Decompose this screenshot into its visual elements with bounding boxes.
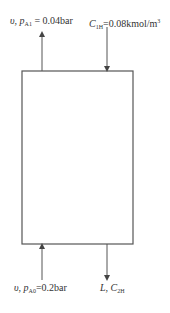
bottom-left-label: υ, pA0=0.2bar: [14, 282, 67, 297]
column-box: [22, 71, 133, 244]
top-right-label: C1H=0.08kmol/m3: [89, 15, 160, 33]
top-left-label: υ, pA1 = 0.04bar: [10, 15, 73, 30]
column-diagram: [0, 0, 170, 313]
bottom-right-label: L, C2H: [100, 282, 125, 297]
